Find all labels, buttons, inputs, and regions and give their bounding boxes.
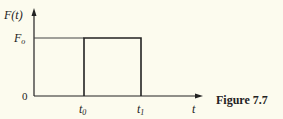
rectangular-pulse (84, 38, 141, 96)
amplitude-label: Fo (13, 31, 25, 46)
origin-label: 0 (22, 90, 28, 102)
x-axis-arrow-icon (195, 94, 203, 99)
y-axis-arrow-icon (32, 8, 37, 16)
pulse-diagram: F(t) Fo 0 t0 t1 t Figure 7.7 (0, 0, 283, 119)
t0-label: t0 (79, 102, 86, 117)
y-axis-label: F(t) (3, 8, 23, 22)
figure-caption: Figure 7.7 (216, 93, 268, 107)
x-axis-label: t (192, 102, 196, 116)
t1-label: t1 (137, 102, 144, 117)
